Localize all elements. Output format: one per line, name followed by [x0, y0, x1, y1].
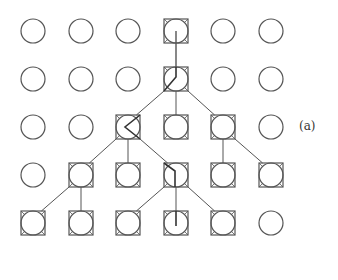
node [21, 67, 45, 91]
boxed-node [69, 211, 93, 235]
node [259, 211, 283, 235]
node [69, 115, 93, 139]
tree-edge [41, 187, 69, 211]
boxed-node [211, 163, 235, 187]
node [21, 163, 45, 187]
tree-edge [136, 91, 164, 115]
node [211, 67, 235, 91]
path-line [125, 115, 140, 139]
boxed-node [21, 211, 45, 235]
node [259, 19, 283, 43]
boxed-node [164, 115, 188, 139]
node [69, 67, 93, 91]
node [259, 115, 283, 139]
tree-edge [235, 139, 263, 163]
boxed-node [69, 163, 93, 187]
tree-edge [188, 187, 215, 211]
node [21, 19, 45, 43]
boxed-node [211, 115, 235, 139]
path-line [164, 67, 176, 91]
boxed-node [259, 163, 283, 187]
boxed-node [116, 163, 140, 187]
boxed-node [116, 211, 140, 235]
node [211, 19, 235, 43]
tree-grid-diagram [0, 0, 338, 280]
path-line [164, 163, 175, 187]
tree-edge [188, 91, 215, 115]
tree-edge [89, 139, 116, 163]
tree-edge [140, 139, 168, 163]
figure-label: (a) [299, 119, 316, 133]
node [69, 19, 93, 43]
node [259, 67, 283, 91]
boxed-node [211, 211, 235, 235]
node [116, 67, 140, 91]
tree-edge [136, 187, 164, 211]
node [21, 115, 45, 139]
node [116, 19, 140, 43]
